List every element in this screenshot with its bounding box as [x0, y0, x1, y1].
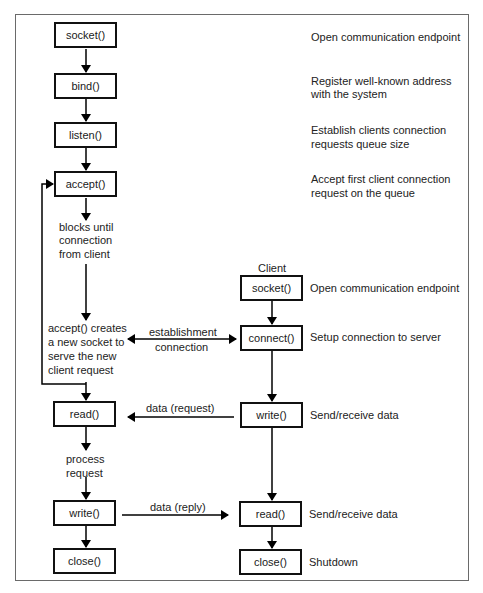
- client-read-box: read(): [239, 501, 302, 527]
- desc-connect: Setup connection to server: [310, 331, 441, 344]
- desc-client-socket: Open communication endpoint: [310, 282, 459, 295]
- label-establishment-1: establishment: [149, 326, 217, 340]
- desc-listen-2: requests queue size: [311, 138, 409, 151]
- note-blocks-3: from client: [59, 248, 110, 262]
- note-blocks-2: connection: [59, 234, 112, 248]
- label-establishment-2: connection: [155, 341, 208, 355]
- desc-accept-2: request on the queue: [311, 187, 415, 200]
- desc-listen-1: Establish clients connection: [311, 124, 446, 137]
- note-process-2: request: [66, 467, 103, 481]
- desc-bind-1: Register well-known address: [311, 75, 452, 88]
- desc-client-close: Shutdown: [309, 556, 358, 569]
- note-accept-creates-3: serve the new: [48, 350, 116, 364]
- server-accept-box: accept(): [54, 171, 117, 197]
- note-blocks-1: blocks until: [59, 221, 113, 235]
- server-write-box: write(): [53, 500, 116, 526]
- desc-accept-1: Accept first client connection: [311, 173, 450, 186]
- note-accept-creates-4: client request: [48, 364, 113, 378]
- client-close-box: close(): [239, 549, 302, 575]
- server-listen-box: listen(): [54, 122, 117, 148]
- server-socket-box: socket(): [54, 22, 117, 48]
- desc-client-write: Send/receive data: [310, 409, 399, 422]
- server-close-box: close(): [53, 548, 116, 574]
- client-connect-box: connect(): [240, 325, 303, 351]
- client-socket-box: socket(): [240, 275, 303, 301]
- desc-server-socket: Open communication endpoint: [311, 31, 460, 44]
- label-data-request: data (request): [146, 402, 214, 416]
- note-accept-creates-2: a new socket to: [48, 336, 124, 350]
- server-read-box: read(): [53, 401, 116, 427]
- desc-bind-2: with the system: [311, 88, 387, 101]
- server-bind-box: bind(): [54, 73, 117, 99]
- client-label: Client: [258, 262, 286, 276]
- note-process-1: process: [66, 453, 105, 467]
- client-write-box: write(): [240, 402, 303, 428]
- desc-client-read: Send/receive data: [309, 508, 398, 521]
- label-data-reply: data (reply): [150, 501, 206, 515]
- note-accept-creates-1: accept() creates: [48, 322, 127, 336]
